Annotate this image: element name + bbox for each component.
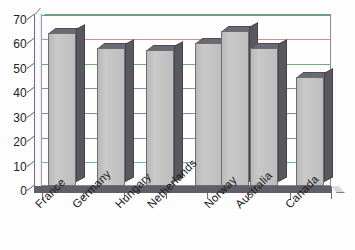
bar-front-face	[250, 48, 278, 186]
x-axis-floor-corner	[331, 186, 345, 193]
y-tick-label-50: 50	[0, 63, 27, 75]
y-tick-label-60: 60	[0, 38, 27, 50]
y-tick-label-0: 0	[0, 185, 27, 197]
y-tick-label-40: 40	[0, 87, 27, 99]
bar-germany	[97, 48, 125, 186]
bar-australia	[250, 48, 278, 186]
bar-side-face	[76, 24, 85, 182]
bar-side-face	[125, 39, 134, 182]
y-tick-label-20: 20	[0, 136, 27, 148]
bar-hungary	[146, 50, 174, 186]
y-axis	[34, 14, 42, 186]
bar-norway	[221, 31, 249, 186]
x-tick-7	[331, 193, 332, 199]
bar-side-face	[324, 68, 333, 182]
y-tick-label-10: 10	[0, 161, 27, 173]
bar-france	[48, 33, 76, 186]
bar-front-face	[97, 48, 125, 186]
y-tick-label-70: 70	[0, 14, 27, 26]
bar-front-face	[146, 50, 174, 186]
bar-front-face	[48, 33, 76, 186]
bar-canada	[296, 77, 324, 186]
gridline-70	[41, 15, 330, 16]
bar-side-face	[174, 41, 183, 182]
bar-front-face	[221, 31, 249, 186]
bar-chart: 70 60 50 40 30 20 10 0	[0, 0, 355, 250]
bar-front-face	[296, 77, 324, 186]
bar-side-face	[278, 39, 287, 182]
y-tick-label-30: 30	[0, 112, 27, 124]
